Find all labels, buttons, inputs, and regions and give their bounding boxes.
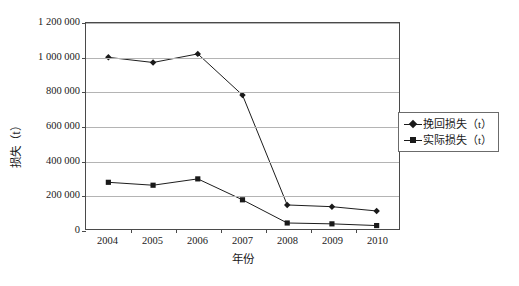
- y-axis-tick-label: 200 000: [14, 190, 80, 200]
- plot-series-svg: [86, 23, 399, 229]
- data-point: [329, 203, 335, 209]
- x-axis-tick: [311, 229, 312, 233]
- x-axis-tick-label: 2007: [220, 234, 266, 247]
- y-axis-tick-labels: 0200 000400 000600 000800 0001 000 0001 …: [14, 0, 80, 286]
- x-axis-tick-label: 2008: [265, 234, 311, 247]
- y-axis-tick: [82, 196, 86, 197]
- x-axis-tick: [356, 229, 357, 233]
- data-point: [285, 220, 290, 225]
- data-point: [374, 223, 379, 228]
- x-axis-tick-label: 2004: [85, 234, 131, 247]
- y-axis-tick-label: 600 000: [14, 121, 80, 131]
- legend-item-label: 实际损失（t）: [423, 133, 492, 147]
- y-axis-tick: [82, 92, 86, 93]
- gridline: [86, 92, 399, 93]
- x-axis-tick: [221, 229, 222, 233]
- gridline: [86, 23, 399, 24]
- data-point: [329, 221, 334, 226]
- data-point: [373, 208, 379, 214]
- x-axis-title: 年份: [85, 250, 400, 266]
- y-axis-tick-label: 1 000 000: [14, 52, 80, 62]
- data-point: [195, 176, 200, 181]
- gridline: [86, 196, 399, 197]
- series-line-1: [108, 54, 376, 211]
- data-point: [106, 180, 111, 185]
- x-axis-tick-label: 2006: [175, 234, 221, 247]
- gridline: [86, 58, 399, 59]
- legend-diamond-icon: [403, 118, 423, 130]
- data-point: [284, 202, 290, 208]
- plot-area: [85, 22, 400, 230]
- legend-item[interactable]: 挽回损失（t）: [403, 116, 492, 132]
- data-point: [150, 59, 156, 65]
- x-axis-tick-label: 2009: [310, 234, 356, 247]
- y-axis-tick-label: 400 000: [14, 156, 80, 166]
- x-axis-title-text: 年份: [232, 253, 254, 265]
- data-point: [240, 197, 245, 202]
- y-axis-tick: [82, 162, 86, 163]
- x-axis-tick-labels: 2004200520062007200820092010: [85, 234, 400, 250]
- data-point: [150, 183, 155, 188]
- x-axis-tick: [266, 229, 267, 233]
- gridline: [86, 162, 399, 163]
- y-axis-tick: [82, 23, 86, 24]
- legend-item[interactable]: 实际损失（t）: [403, 132, 492, 148]
- x-axis-tick-label: 2010: [355, 234, 401, 247]
- y-axis-tick: [82, 127, 86, 128]
- chart-legend: 挽回损失（t）实际损失（t）: [398, 112, 499, 152]
- y-axis-tick: [82, 231, 86, 232]
- legend-item-label: 挽回损失（t）: [423, 117, 492, 131]
- y-axis-tick: [82, 58, 86, 59]
- y-axis-tick-label: 0: [14, 225, 80, 235]
- x-axis-tick: [176, 229, 177, 233]
- x-axis-tick: [131, 229, 132, 233]
- legend-square-icon: [403, 134, 423, 146]
- y-axis-tick-label: 1 200 000: [14, 17, 80, 27]
- line-chart: 损失（t） 0200 000400 000600 000800 0001 000…: [0, 0, 519, 286]
- x-axis-tick-label: 2005: [130, 234, 176, 247]
- y-axis-tick-label: 800 000: [14, 86, 80, 96]
- gridline: [86, 127, 399, 128]
